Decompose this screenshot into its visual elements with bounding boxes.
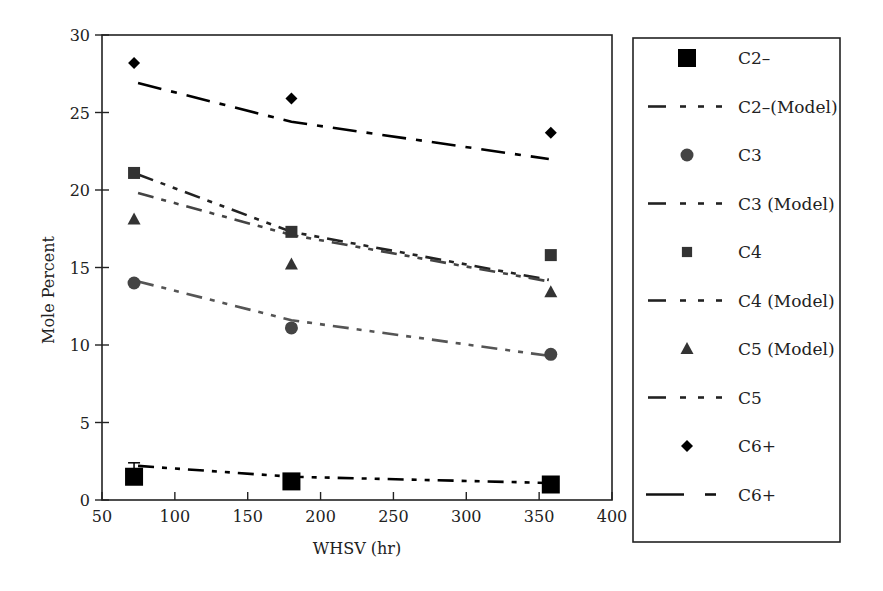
x-tick-label: 100 <box>160 507 191 526</box>
y-tick-label: 15 <box>70 259 90 278</box>
square-marker-icon <box>678 49 696 67</box>
y-tick-label: 0 <box>80 491 90 510</box>
triangle-marker-icon <box>544 285 557 297</box>
y-tick-label: 30 <box>70 26 90 45</box>
y-tick-label: 10 <box>70 336 90 355</box>
square-marker-icon <box>125 468 143 486</box>
x-tick-label: 150 <box>232 507 263 526</box>
x-axis: 50100150200250300350400 <box>92 492 627 526</box>
circle-marker-icon <box>544 348 557 361</box>
x-tick-label: 50 <box>92 507 112 526</box>
legend-label: C6+ <box>738 436 776 456</box>
triangle-marker-icon <box>128 212 141 224</box>
chart-canvas: 50100150200250300350400 051015202530 WHS… <box>0 0 883 591</box>
x-tick-label: 350 <box>524 507 555 526</box>
square-marker-icon <box>128 167 140 179</box>
y-axis-title: Mole Percent <box>39 235 58 344</box>
legend-label: C4 <box>738 242 762 262</box>
plot-frame <box>102 35 612 500</box>
x-tick-label: 200 <box>305 507 336 526</box>
series-layer <box>125 57 560 494</box>
legend-label: C2– <box>738 48 770 68</box>
x-tick-label: 250 <box>378 507 409 526</box>
legend-label: C5 <box>738 388 762 408</box>
square-marker-icon <box>285 226 297 238</box>
circle-marker-icon <box>681 149 694 162</box>
diamond-marker-icon <box>128 57 140 69</box>
circle-marker-icon <box>128 277 141 290</box>
diamond-marker-icon <box>285 93 297 105</box>
y-tick-label: 5 <box>80 414 90 433</box>
legend-label: C3 <box>738 145 762 165</box>
square-marker-icon <box>682 247 692 257</box>
y-tick-label: 20 <box>70 181 90 200</box>
square-marker-icon <box>545 249 557 261</box>
square-marker-icon <box>282 472 300 490</box>
legend-label: C3 (Model) <box>738 194 835 214</box>
series-line <box>138 175 549 280</box>
legend-label: C5 (Model) <box>738 339 835 359</box>
series-line <box>138 281 549 355</box>
legend-label: C2–(Model) <box>738 97 838 117</box>
circle-marker-icon <box>285 321 298 334</box>
triangle-marker-icon <box>285 257 298 269</box>
y-tick-label: 25 <box>70 104 90 123</box>
series-line <box>138 466 549 483</box>
y-axis: 051015202530 <box>70 26 109 510</box>
series-markers <box>128 167 557 261</box>
square-marker-icon <box>542 476 560 494</box>
series-markers <box>128 212 558 297</box>
legend-label: C6+ <box>738 485 776 505</box>
x-axis-title: WHSV (hr) <box>313 539 401 558</box>
legend-label: C4 (Model) <box>738 291 835 311</box>
series-line <box>138 83 549 159</box>
x-tick-label: 400 <box>597 507 628 526</box>
x-tick-label: 300 <box>451 507 482 526</box>
diamond-marker-icon <box>545 127 557 139</box>
